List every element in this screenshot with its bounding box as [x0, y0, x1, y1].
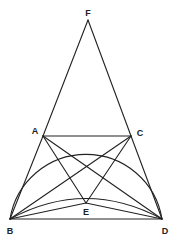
geometry-diagram: F A C B D E — [0, 0, 176, 245]
label-D: D — [162, 226, 169, 236]
label-B: B — [7, 226, 14, 236]
segment-FA — [43, 20, 88, 136]
segment-AE — [43, 136, 86, 203]
segment-FC — [88, 20, 131, 136]
segment-CD — [131, 136, 162, 219]
label-F: F — [85, 8, 91, 18]
label-C: C — [137, 128, 144, 138]
label-E: E — [83, 207, 89, 217]
label-A: A — [32, 126, 39, 136]
